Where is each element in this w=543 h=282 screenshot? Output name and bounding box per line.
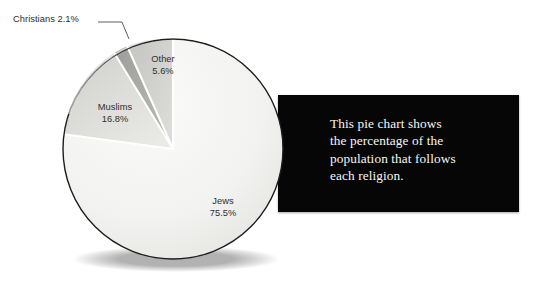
slice-label-muslims: Muslims 16.8%: [78, 102, 152, 125]
caption-text: This pie chart shows the percentage of t…: [330, 115, 510, 185]
slice-label-christians: Christians 2.1%: [13, 14, 79, 25]
caption-panel: This pie chart shows the percentage of t…: [278, 95, 519, 212]
pie-chart-figure: This pie chart shows the percentage of t…: [0, 0, 543, 282]
slice-label-jews: Jews 75.5%: [186, 196, 260, 219]
slice-label-other: Other 5.6%: [132, 54, 194, 77]
